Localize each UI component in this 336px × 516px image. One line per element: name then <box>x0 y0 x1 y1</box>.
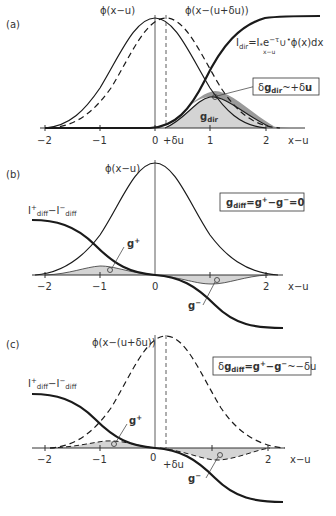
g-plus-label-b: g+ <box>127 237 140 249</box>
panel-a: (a) ϕ(x−u) ϕ(x−(u+δu)) Idir= <box>6 5 323 146</box>
i-dir-curve <box>45 16 320 128</box>
tick-c-neg1: −1 <box>92 454 107 465</box>
phi-shift-curve-c <box>50 336 285 448</box>
g-minus-label-b: g− <box>188 299 201 311</box>
phi-curve-b <box>35 163 278 275</box>
tick-a-2: 2 <box>263 135 269 146</box>
panel-c-label: (c) <box>6 339 19 350</box>
figure-canvas: (a) ϕ(x−u) ϕ(x−(u+δu)) Idir= <box>0 0 336 516</box>
i-diff-label-c: I+diff−I−diff <box>28 377 77 391</box>
tick-b-0: 0 <box>152 281 158 292</box>
tick-a-0: 0 <box>152 135 158 146</box>
tick-c-0: 0 <box>150 452 156 463</box>
tick-c-2: 2 <box>265 454 271 465</box>
g-minus-label-c: g− <box>188 472 201 484</box>
tick-a-1: 1 <box>207 135 213 146</box>
i-diff-label-b: I+diff−I−diff <box>28 204 77 218</box>
axis-label-a: x−u <box>288 135 309 146</box>
tick-b-2: 2 <box>263 281 269 292</box>
phi-shift-label-c: ϕ(x−(u+δu)) <box>92 337 156 348</box>
phi-label-b: ϕ(x−u) <box>105 163 140 174</box>
phi-shift-label-a: ϕ(x−(u+δu)) <box>185 5 249 16</box>
axis-label-c: x−u <box>290 454 311 465</box>
leader-b-minus <box>203 282 215 305</box>
tick-a-neg1: −1 <box>92 135 107 146</box>
g-plus-fill-c <box>50 441 155 448</box>
panel-a-label: (a) <box>6 19 20 30</box>
tick-b-neg2: −2 <box>37 281 52 292</box>
phi-label-a: ϕ(x−u) <box>100 5 135 16</box>
g-minus-fill <box>155 275 268 284</box>
panel-b-label: (b) <box>6 169 20 180</box>
g-plus-label-c: g+ <box>129 414 142 426</box>
tick-c-neg2: −2 <box>37 454 52 465</box>
tick-c-delta-u: +δu <box>163 459 184 470</box>
tick-b-neg1: −1 <box>92 281 107 292</box>
axis-label-b: x−u <box>288 281 309 292</box>
tick-a-neg2: −2 <box>37 135 52 146</box>
panel-b: (b) ϕ(x−u) I+diff−I−diff g+ g− gdiff=g+−… <box>6 160 309 328</box>
tick-a-delta-u: +δu <box>163 135 184 146</box>
svg-text:Idir=I*e−τ∪•ϕ(x)dx: Idir=I*e−τ∪•ϕ(x)dx <box>236 36 323 51</box>
panel-c: (c) ϕ(x−(u+δu)) I+diff−I−diff g+ g− δgdi… <box>6 335 316 502</box>
svg-text:x−u: x−u <box>263 48 276 55</box>
i-dir-formula: Idir=I*e−τ∪•ϕ(x)dx x−u <box>236 36 323 55</box>
